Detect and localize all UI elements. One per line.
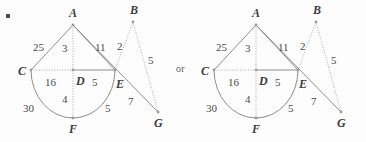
edge-label-AE: 11 [278, 41, 289, 53]
point-label-D: D [75, 74, 85, 88]
vertex-B [315, 21, 318, 24]
edge-label-DE: 5 [92, 76, 98, 88]
left-diagram-edges [31, 22, 158, 118]
vertex-C [30, 69, 33, 72]
point-label-G: G [337, 116, 346, 130]
edge-A-G [256, 25, 341, 112]
point-label-B: B [312, 3, 321, 17]
point-label-C: C [18, 64, 27, 78]
edge-label-DF: 4 [245, 93, 251, 105]
edge-label-arc-CF: 30 [206, 102, 218, 114]
edge-label-BG: 5 [148, 54, 154, 66]
right-diagram: A B C D E F G 25 3 11 2 5 16 5 4 30 5 7 [183, 0, 366, 142]
edge-label-AE: 11 [95, 41, 106, 53]
edge-label-AD: 3 [62, 42, 68, 54]
vertex-F [72, 117, 75, 120]
edge-label-FE: 5 [288, 102, 294, 114]
edge-label-AB: 2 [300, 40, 306, 52]
right-diagram-edges [214, 22, 341, 118]
vertex-G [157, 111, 160, 114]
point-label-A: A [251, 6, 260, 20]
vertex-G [340, 111, 343, 114]
edge-label-FE: 5 [105, 102, 111, 114]
vertex-C [213, 69, 216, 72]
point-label-D: D [258, 74, 268, 88]
left-diagram: A B C D E F G 25 3 11 2 5 16 5 4 30 5 7 [0, 0, 183, 142]
edge-label-DE: 5 [275, 76, 281, 88]
point-label-C: C [201, 64, 210, 78]
edge-label-AB: 2 [117, 40, 123, 52]
vertex-F [255, 117, 258, 120]
vertex-E [114, 69, 117, 72]
vertex-B [132, 21, 135, 24]
edge-label-CA: 25 [216, 41, 228, 53]
edge-label-EG: 7 [128, 95, 134, 107]
point-label-F: F [251, 122, 260, 136]
vertex-A [72, 24, 75, 27]
point-label-A: A [68, 6, 77, 20]
edge-label-CD: 16 [228, 76, 240, 88]
point-label-E: E [115, 77, 124, 91]
vertex-D [255, 69, 258, 72]
edge-label-arc-CF: 30 [23, 102, 35, 114]
edge-label-CA: 25 [33, 41, 45, 53]
edge-label-EG: 7 [311, 95, 317, 107]
edge-label-AD: 3 [245, 42, 251, 54]
vertex-D [72, 69, 75, 72]
vertex-A [255, 24, 258, 27]
vertex-E [297, 69, 300, 72]
edge-label-CD: 16 [45, 76, 57, 88]
figure-canvas: A B C D E F G 25 3 11 2 5 16 5 4 30 5 7 … [0, 0, 366, 142]
edge-label-BG: 5 [331, 54, 337, 66]
point-label-G: G [154, 116, 163, 130]
edge-A-G [73, 25, 158, 112]
point-label-B: B [129, 3, 138, 17]
edge-label-DF: 4 [62, 93, 68, 105]
point-label-F: F [68, 122, 77, 136]
point-label-E: E [298, 77, 307, 91]
